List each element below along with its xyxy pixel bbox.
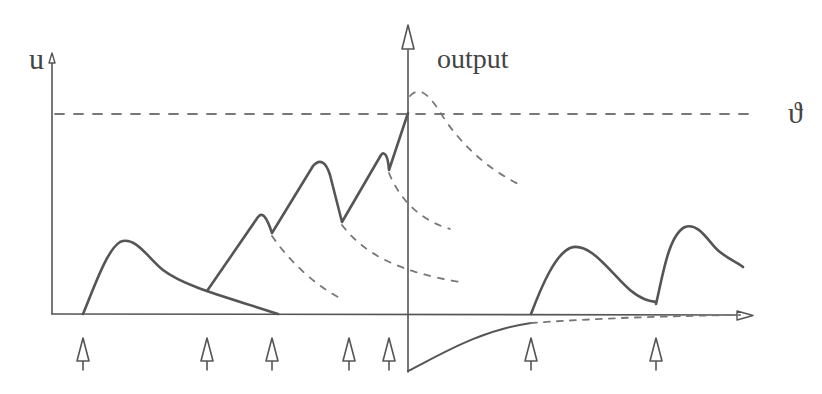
output-spike-arrow-icon xyxy=(402,25,414,49)
input-spike-arrow-icon xyxy=(266,338,278,370)
input-spike-arrow-icon xyxy=(650,338,662,370)
psp-curve-late-1 xyxy=(531,247,656,314)
input-spike-arrow-icon xyxy=(383,338,395,370)
reset-kernel-curve xyxy=(408,323,531,371)
psp-curve-1 xyxy=(83,241,278,314)
threshold-label: ϑ xyxy=(788,96,803,130)
decay-dashed-4 xyxy=(410,92,520,185)
reset-kernel-dashed xyxy=(531,315,740,323)
decay-dashed-3 xyxy=(389,173,450,229)
psp-curve-late-2 xyxy=(656,226,743,304)
decay-dashed-2 xyxy=(342,225,460,282)
u-axis-arrowhead-icon xyxy=(49,53,55,63)
u-axis-label: u xyxy=(29,44,44,74)
psp-curve-summed xyxy=(207,113,408,291)
neuron-potential-diagram xyxy=(0,0,822,394)
input-spike-arrows xyxy=(77,338,662,370)
input-spike-arrow-icon xyxy=(77,338,89,370)
time-axis xyxy=(52,314,738,315)
input-spike-arrow-icon xyxy=(343,338,355,370)
decay-dashed-1 xyxy=(272,236,340,298)
input-spike-arrow-icon xyxy=(201,338,213,370)
output-axis-label: output xyxy=(437,44,509,74)
input-spike-arrow-icon xyxy=(525,338,537,370)
